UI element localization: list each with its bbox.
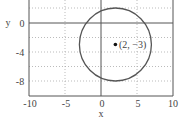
xtick-label: 5 [136,98,141,109]
xtick-label: 10 [168,98,178,109]
xtick-label: -5 [62,98,70,109]
ytick-label: 0 [20,18,25,29]
point-label: (2, −3) [119,39,146,51]
y-axis-label: y [6,17,11,28]
ytick-label: -4 [16,47,24,58]
plot-area: (2, −3) [29,0,173,96]
ytick-label: -8 [16,76,24,87]
center-point [114,43,118,47]
xtick-label: -10 [23,98,36,109]
chart: (2, −3) 0 -4 -8 y -10 -5 0 5 10 x [0,0,185,125]
x-axis-label: x [99,108,104,119]
